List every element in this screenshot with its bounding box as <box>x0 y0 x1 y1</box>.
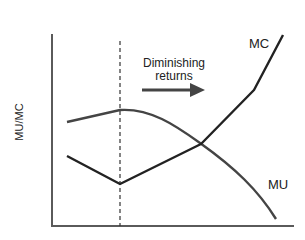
y-axis-label: MU/MC <box>13 103 25 140</box>
diagram: Diminishing returns MC MU MU/MC <box>0 0 305 240</box>
annotation-line1: Diminishing <box>143 56 205 70</box>
mu-curve <box>67 110 276 219</box>
mu-label: MU <box>268 177 288 192</box>
annotation-line2: returns <box>155 69 192 83</box>
mc-label: MC <box>249 36 269 51</box>
arrow-head-icon <box>190 83 205 97</box>
